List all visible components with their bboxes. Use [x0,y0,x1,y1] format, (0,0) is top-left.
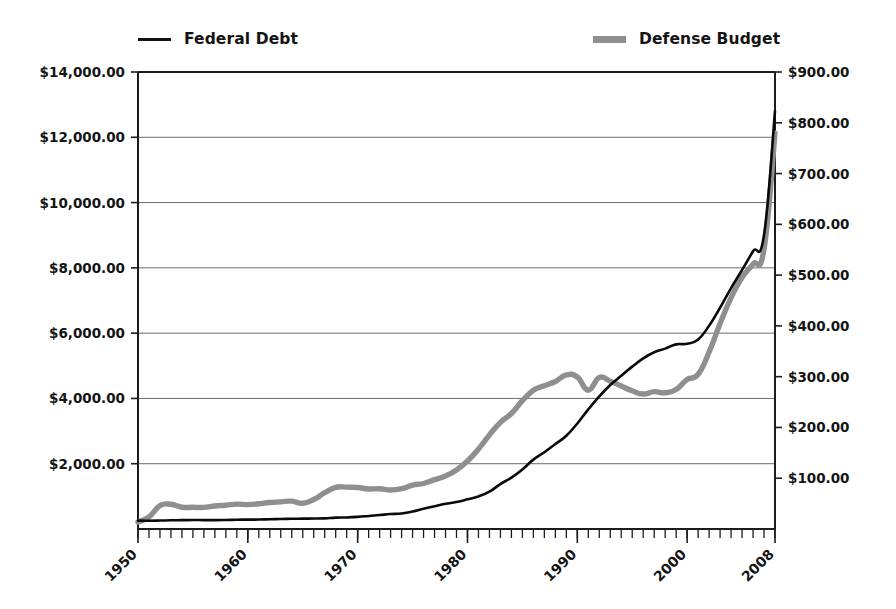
left-axis-tick-label: $14,000.00 [40,64,125,80]
left-axis-tick-label: $8,000.00 [49,260,125,276]
right-axis-tick-label: $700.00 [788,166,850,182]
x-axis-tick-label: 1950 [101,546,140,585]
x-axis-tick-labels: 1950196019701980199020002008 [101,546,777,585]
x-axis-tick-label: 1980 [431,546,470,585]
left-axis-ticks [131,72,138,464]
x-axis-tick-label: 2008 [738,546,777,585]
axis-frame [138,72,775,529]
right-axis-tick-label: $500.00 [788,267,850,283]
chart-container: Federal Debt Defense Budget $14,000.00$1… [0,0,896,609]
left-axis-tick-label: $10,000.00 [40,195,125,211]
right-axis-tick-label: $600.00 [788,216,850,232]
left-axis-tick-label: $6,000.00 [49,325,125,341]
right-axis-tick-label: $400.00 [788,318,850,334]
x-axis-tick-label: 1960 [211,546,250,585]
left-axis-tick-label: $12,000.00 [40,129,125,145]
right-axis-tick-label: $800.00 [788,115,850,131]
series-line-federal-debt [138,111,775,521]
right-axis-tick-labels: $900.00$800.00$700.00$600.00$500.00$400.… [788,64,850,486]
right-axis-tick-label: $900.00 [788,64,850,80]
x-axis-tick-label: 1990 [541,546,580,585]
x-axis-tick-label: 2000 [650,546,689,585]
x-axis-tick-label: 1970 [321,546,360,585]
left-axis-tick-label: $4,000.00 [49,390,125,406]
chart-plot: $14,000.00$12,000.00$10,000.00$8,000.00$… [0,0,896,609]
x-axis-minor-ticks [138,529,775,538]
right-axis-tick-label: $300.00 [788,369,850,385]
left-axis-tick-labels: $14,000.00$12,000.00$10,000.00$8,000.00$… [40,64,125,472]
gridlines-group [138,72,775,464]
right-axis-tick-label: $200.00 [788,419,850,435]
right-axis-tick-label: $100.00 [788,470,850,486]
left-axis-tick-label: $2,000.00 [49,456,125,472]
